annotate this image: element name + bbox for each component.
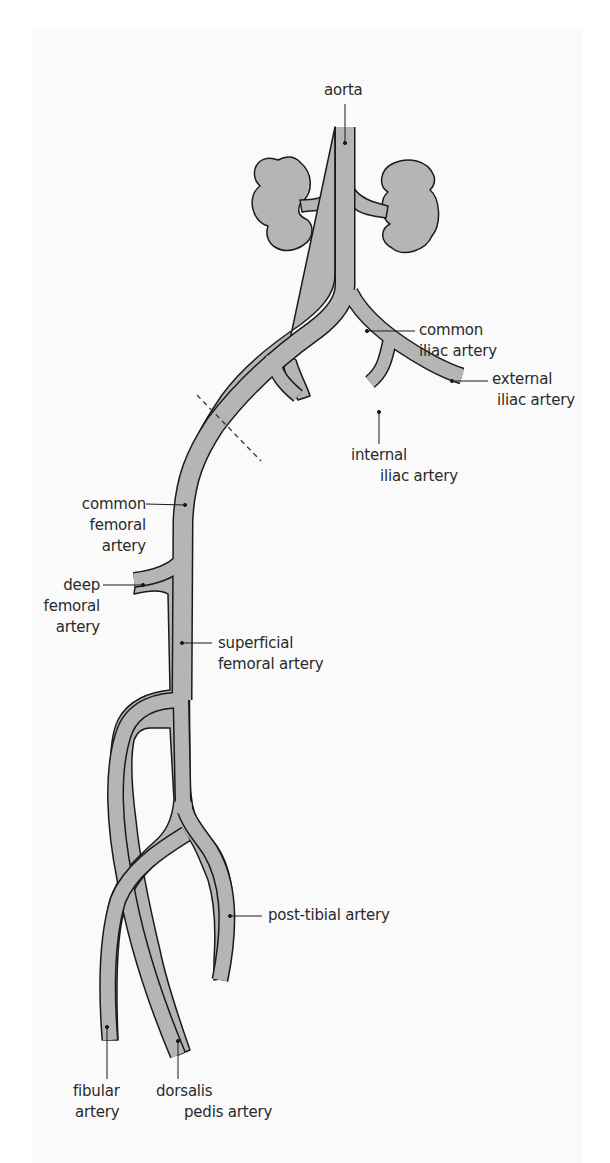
label-common-femoral-artery: common femoral artery (62, 494, 146, 557)
label-line: deep (36, 575, 100, 596)
label-line: iliac artery (497, 390, 575, 411)
label-line: fibular (73, 1081, 120, 1102)
label-common-iliac-artery: common iliac artery (419, 320, 497, 362)
label-line: internal (351, 445, 458, 466)
label-line: iliac artery (419, 341, 497, 362)
label-line: artery (75, 1102, 120, 1123)
label-line: pedis artery (184, 1102, 272, 1123)
label-line: artery (62, 536, 146, 557)
label-internal-iliac-artery: internal iliac artery (351, 445, 458, 487)
label-aorta-text: aorta (324, 80, 363, 101)
right-kidney (382, 160, 439, 252)
label-line: femoral (62, 515, 146, 536)
label-line: iliac artery (380, 466, 458, 487)
label-dorsalis-pedis-artery: dorsalis pedis artery (156, 1081, 272, 1123)
label-superficial-femoral-artery: superficial femoral artery (218, 633, 323, 675)
label-line: external (492, 369, 575, 390)
label-deep-femoral-artery: deep femoral artery (36, 575, 100, 638)
label-line: post-tibial artery (268, 905, 390, 926)
label-aorta: aorta (324, 80, 363, 101)
label-line: common (62, 494, 146, 515)
label-line: artery (36, 617, 100, 638)
label-line: common (419, 320, 497, 341)
label-fibular-artery: fibular artery (73, 1081, 120, 1123)
label-line: dorsalis (156, 1081, 272, 1102)
label-external-iliac-artery: external iliac artery (492, 369, 575, 411)
label-line: femoral artery (218, 654, 323, 675)
label-line: femoral (36, 596, 100, 617)
label-post-tibial-artery: post-tibial artery (268, 905, 390, 926)
label-line: superficial (218, 633, 323, 654)
